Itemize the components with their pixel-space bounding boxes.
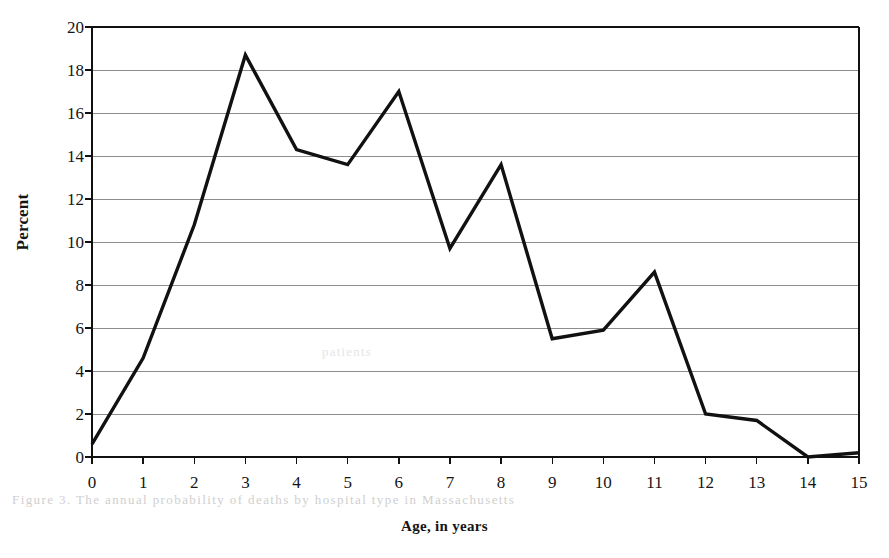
x-tick-label: 2 xyxy=(174,474,214,491)
x-tick-label: 9 xyxy=(532,474,572,491)
x-tick-label: 8 xyxy=(481,474,521,491)
x-tick-label: 3 xyxy=(225,474,265,491)
y-axis-tick-marks xyxy=(85,27,92,457)
x-tick-label: 12 xyxy=(686,474,726,491)
x-axis-tick-labels: 0123456789101112131415 xyxy=(0,474,889,498)
x-tick-label: 14 xyxy=(788,474,828,491)
x-tick-label: 4 xyxy=(277,474,317,491)
x-tick-label: 6 xyxy=(379,474,419,491)
line-chart-figure: Figure 3. The annual probability of deat… xyxy=(0,0,889,558)
x-tick-label: 10 xyxy=(583,474,623,491)
x-tick-label: 13 xyxy=(737,474,777,491)
x-tick-label: 15 xyxy=(839,474,879,491)
x-tick-label: 11 xyxy=(634,474,674,491)
x-tick-label: 7 xyxy=(430,474,470,491)
gridlines-group xyxy=(92,27,859,414)
x-tick-label: 5 xyxy=(328,474,368,491)
x-tick-label: 1 xyxy=(123,474,163,491)
x-axis-title: Age, in years xyxy=(0,518,889,535)
x-tick-label: 0 xyxy=(72,474,112,491)
data-series-line xyxy=(92,55,859,457)
